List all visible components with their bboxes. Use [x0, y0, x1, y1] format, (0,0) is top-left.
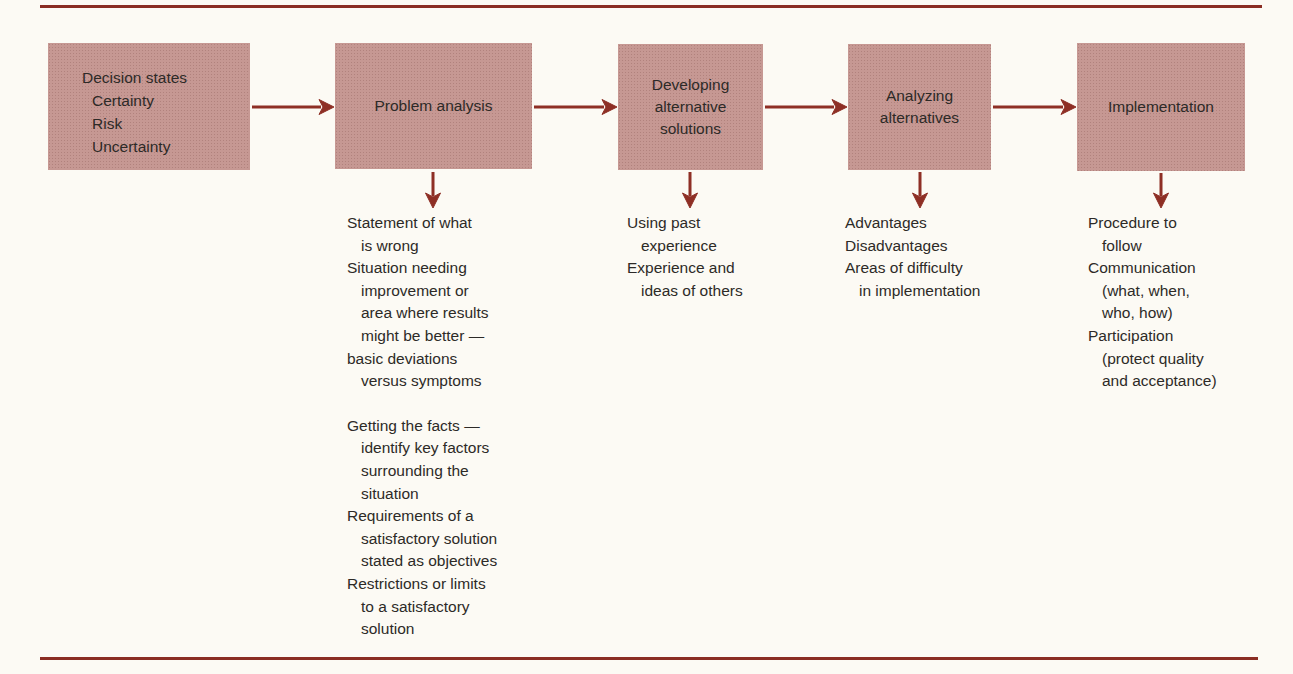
- note-line: stated as objectives: [361, 550, 497, 573]
- note-line: Advantages: [845, 212, 980, 235]
- note-line: satisfactory solution: [361, 528, 497, 551]
- top-rule: [40, 5, 1262, 8]
- note-line: ideas of others: [641, 280, 743, 303]
- box-label-line: Developing: [652, 74, 730, 96]
- flow-box-developing-alternative-solutions: Developing alternative solutions: [618, 44, 763, 170]
- arrow-down-icon: [1154, 173, 1169, 208]
- note-line: and acceptance): [1102, 370, 1217, 393]
- flow-box-decision-states: Decision states Certainty Risk Uncertain…: [48, 43, 250, 170]
- arrow-down-icon: [913, 172, 928, 208]
- note-line: Requirements of a: [347, 505, 497, 528]
- note-line: Disadvantages: [845, 235, 980, 258]
- note-line: in implementation: [859, 280, 980, 303]
- note-line: might be better —: [361, 325, 497, 348]
- box-label-line: Implementation: [1108, 96, 1214, 118]
- note-line: Participation: [1088, 325, 1217, 348]
- note-line: Areas of difficulty: [845, 257, 980, 280]
- notes-problem-analysis: Statement of what is wrong Situation nee…: [347, 212, 497, 641]
- note-line: Using past: [627, 212, 743, 235]
- notes-implementation: Procedure to follow Communication (what,…: [1088, 212, 1217, 393]
- note-line: (what, when,: [1102, 280, 1217, 303]
- note-line: identify key factors: [361, 437, 497, 460]
- flow-box-analyzing-alternatives: Analyzing alternatives: [848, 44, 991, 170]
- note-line: Situation needing: [347, 257, 497, 280]
- note-line: is wrong: [361, 235, 497, 258]
- note-line: Procedure to: [1088, 212, 1217, 235]
- arrow-right-icon: [993, 100, 1076, 115]
- box-label-line: Uncertainty: [92, 135, 250, 158]
- note-line: Getting the facts —: [347, 415, 497, 438]
- note-line: Restrictions or limits: [347, 573, 497, 596]
- arrow-right-icon: [252, 100, 334, 115]
- note-line: situation: [361, 483, 497, 506]
- note-line: Statement of what: [347, 212, 497, 235]
- note-line: (protect quality: [1102, 348, 1217, 371]
- note-line: versus symptoms: [361, 370, 497, 393]
- note-line: to a satisfactory: [361, 596, 497, 619]
- arrow-right-icon: [765, 100, 847, 115]
- box-label-line: Problem analysis: [374, 95, 492, 117]
- box-label-line: Risk: [92, 112, 250, 135]
- box-label-line: solutions: [660, 118, 721, 140]
- note-line: experience: [641, 235, 743, 258]
- note-line: improvement or: [361, 280, 497, 303]
- decision-process-figure: Decision states Certainty Risk Uncertain…: [0, 0, 1293, 674]
- arrow-right-icon: [534, 100, 617, 115]
- note-line: follow: [1102, 235, 1217, 258]
- note-line: Experience and: [627, 257, 743, 280]
- arrow-down-icon: [426, 172, 441, 208]
- box-label-line: Analyzing: [886, 85, 953, 107]
- note-line: basic deviations: [347, 348, 497, 371]
- arrow-down-icon: [683, 172, 698, 208]
- note-line: area where results: [361, 302, 497, 325]
- box-label-line: Certainty: [92, 89, 250, 112]
- box-label-line: Decision states: [82, 66, 250, 89]
- box-label-line: alternative: [655, 96, 727, 118]
- note-line: Communication: [1088, 257, 1217, 280]
- notes-analyzing-alternatives: Advantages Disadvantages Areas of diffic…: [845, 212, 980, 302]
- note-line: who, how): [1102, 302, 1217, 325]
- flow-box-implementation: Implementation: [1077, 43, 1245, 171]
- flow-box-problem-analysis: Problem analysis: [335, 43, 532, 169]
- note-line: solution: [361, 618, 497, 641]
- note-line: surrounding the: [361, 460, 497, 483]
- bottom-rule: [40, 657, 1258, 660]
- box-label-line: alternatives: [880, 107, 959, 129]
- notes-developing-alternative-solutions: Using past experience Experience and ide…: [627, 212, 743, 302]
